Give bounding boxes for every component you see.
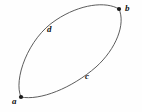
vertex-label-a: a xyxy=(12,97,17,106)
edge-label-d: d xyxy=(47,25,52,34)
edge-label-c: c xyxy=(85,72,89,81)
edge-path-c xyxy=(21,9,121,98)
diagram-svg xyxy=(0,0,142,112)
vertex-dot-a xyxy=(19,95,23,99)
diagram-canvas: d c a b xyxy=(0,0,142,112)
vertex-label-b: b xyxy=(125,4,130,13)
vertex-dot-b xyxy=(117,7,121,11)
edge-path-d xyxy=(19,5,119,97)
